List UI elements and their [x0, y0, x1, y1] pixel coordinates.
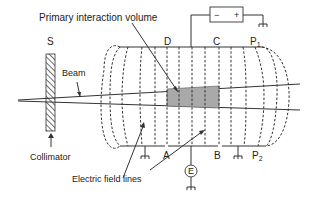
arrow-field-right [150, 131, 203, 170]
label-collimator: Collimator [30, 152, 71, 162]
collimator-slab [46, 54, 55, 131]
battery-plus-sign: + [234, 10, 239, 20]
arrowhead [199, 130, 205, 135]
beam-lower-edge [18, 101, 300, 110]
ground-icon [141, 146, 149, 159]
label-plate-d: D [164, 36, 171, 47]
field-line-left-inner [110, 47, 120, 146]
label-plate-p2: P2 [252, 150, 263, 162]
ionization-chamber-diagram: Primary interaction volume S Beam Collim… [0, 0, 310, 203]
label-plate-b: B [214, 150, 221, 161]
battery-wire-left [191, 15, 210, 47]
ground-icon [259, 24, 267, 27]
beam-upper-edge [18, 84, 300, 100]
label-source: S [47, 36, 54, 47]
ground-icon [187, 187, 195, 190]
label-electrometer: E [188, 166, 194, 176]
label-beam: Beam [62, 68, 86, 78]
ground-icon [234, 146, 242, 159]
battery-minus-sign: − [214, 10, 219, 20]
label-field-lines: Electric field lines [72, 174, 142, 184]
label-plate-p1: P1 [250, 36, 261, 48]
diagram-canvas: Primary interaction volume S Beam Collim… [0, 0, 310, 203]
field-line-right-inner [255, 47, 264, 146]
field-line [122, 47, 128, 146]
arrowhead [48, 133, 54, 138]
field-line-right-mid [262, 47, 277, 146]
field-line [243, 47, 246, 146]
field-line-right-outer [262, 47, 289, 146]
beam [18, 84, 300, 110]
label-primary-volume: Primary interaction volume [39, 12, 158, 23]
label-plate-c: C [213, 36, 220, 47]
arrow-field-left [123, 124, 144, 178]
label-plate-a: A [163, 150, 170, 161]
battery-wire-right [243, 15, 263, 24]
